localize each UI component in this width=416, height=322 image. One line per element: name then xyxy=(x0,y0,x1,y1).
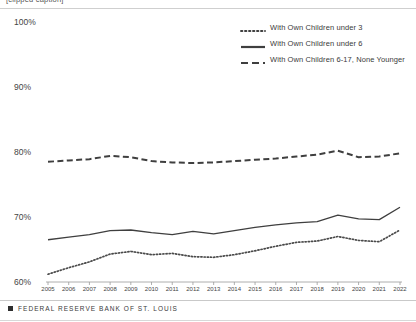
chart-axes xyxy=(46,282,402,285)
y-axis-tick-label: 60% xyxy=(14,277,31,287)
legend-item-0: With Own Children under 3 xyxy=(240,19,416,35)
top-caption-text: [clipped caption] xyxy=(6,0,64,4)
footer-divider xyxy=(0,300,416,301)
footer-text: FEDERAL RESERVE BANK OF ST. LOUIS xyxy=(18,305,178,312)
legend-item-2: With Own Children 6-17, None Younger xyxy=(240,51,416,67)
x-axis-tick-label: 2006 xyxy=(62,286,75,292)
legend-swatch-solid xyxy=(240,38,266,48)
x-axis-tick-label: 2011 xyxy=(166,286,179,292)
legend-swatch-dotted xyxy=(240,22,266,32)
square-bullet-icon xyxy=(8,306,13,311)
footer: FEDERAL RESERVE BANK OF ST. LOUIS xyxy=(8,305,178,312)
x-axis-tick-label: 2012 xyxy=(186,286,199,292)
x-axis-tick-label: 2005 xyxy=(41,286,54,292)
y-axis-tick-label: 90% xyxy=(14,82,31,92)
x-axis-tick-label: 2019 xyxy=(331,286,344,292)
legend-item-1: With Own Children under 6 xyxy=(240,35,416,51)
x-axis-tick-label: 2013 xyxy=(207,286,220,292)
x-axis-tick-label: 2022 xyxy=(393,286,406,292)
series-line-2 xyxy=(48,151,400,163)
series-line-1 xyxy=(48,207,400,240)
x-axis-tick-label: 2016 xyxy=(269,286,282,292)
x-axis-tick-label: 2008 xyxy=(103,286,116,292)
legend-swatch-dashed xyxy=(240,54,266,64)
x-axis-tick-label: 2009 xyxy=(124,286,137,292)
x-axis-tick-label: 2020 xyxy=(352,286,365,292)
legend-item-label: With Own Children 6-17, None Younger xyxy=(270,55,405,64)
chart-series-layer xyxy=(48,151,400,275)
x-axis-tick-label: 2010 xyxy=(145,286,158,292)
x-axis-tick-label: 2007 xyxy=(83,286,96,292)
legend-item-label: With Own Children under 6 xyxy=(270,39,363,48)
x-axis-tick-label: 2021 xyxy=(373,286,386,292)
bottom-divider xyxy=(0,320,416,321)
x-axis-tick-label: 2018 xyxy=(310,286,323,292)
y-axis-tick-label: 80% xyxy=(14,147,31,157)
y-axis-tick-label: 70% xyxy=(14,212,31,222)
y-axis-tick-label: 100% xyxy=(14,17,36,27)
x-axis-tick-label: 2015 xyxy=(248,286,261,292)
x-axis-tick-label: 2014 xyxy=(228,286,241,292)
chart-legend: With Own Children under 3With Own Childr… xyxy=(240,19,416,67)
x-axis-tick-label: 2017 xyxy=(290,286,303,292)
legend-item-label: With Own Children under 3 xyxy=(270,23,363,32)
series-line-0 xyxy=(48,230,400,274)
